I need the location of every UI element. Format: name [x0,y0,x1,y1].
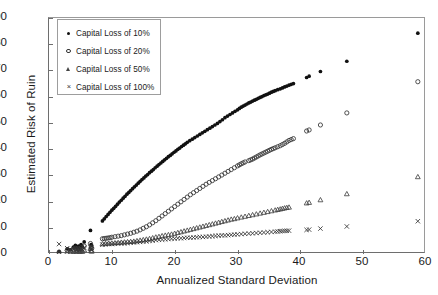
x-axis-title: Annualized Standard Deviation [48,274,426,286]
legend-item-100: × Capital Loss of 100% [63,78,160,96]
legend-item-50: Capital Loss of 50% [63,60,160,78]
chart-legend: Capital Loss of 10% Capital Loss of 20% … [57,19,161,95]
x-tick-label: 0 [33,256,63,268]
y-tick-label: 20 [0,194,7,206]
legend-item-20: Capital Loss of 20% [63,42,160,60]
y-tick-label: 70 [0,63,7,75]
y-axis-title: Estimated Risk of Ruin [25,24,37,244]
x-tick-label: 20 [159,256,189,268]
y-tick-label: 50 [0,116,7,128]
y-tick-label: 90 [0,11,7,23]
y-tick-label: 40 [0,142,7,154]
x-tick-label: 40 [284,256,314,268]
y-tick-label: 0 [0,247,7,259]
y-tick-label: 10 [0,221,7,233]
legend-label: Capital Loss of 50% [76,65,150,74]
x-tick-label: 30 [221,256,251,268]
x-tick-label: 50 [347,256,377,268]
y-tick-label: 60 [0,89,7,101]
legend-label: Capital Loss of 10% [76,29,150,38]
legend-item-10: Capital Loss of 10% [63,24,160,42]
legend-label: Capital Loss of 100% [76,83,154,92]
y-tick-label: 80 [0,37,7,49]
legend-label: Capital Loss of 20% [76,47,150,56]
filled-dot-icon [63,27,75,39]
open-circle-icon [63,45,75,57]
risk-of-ruin-scatter-figure: Estimated Risk of Ruin Annualized Standa… [0,0,438,295]
x-tick-label: 60 [410,256,438,268]
y-tick-label: 30 [0,168,7,180]
cross-x-icon: × [63,81,75,93]
open-triangle-icon [63,63,75,75]
x-tick-label: 10 [96,256,126,268]
